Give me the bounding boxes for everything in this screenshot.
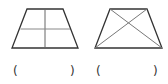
trapezoid-outline <box>95 9 162 48</box>
trapezoid-grid-figure <box>12 9 78 48</box>
answer-open-paren: ( <box>13 65 18 77</box>
answer-open-paren: ( <box>96 65 101 77</box>
answer-close-paren: ) <box>153 65 158 77</box>
trapezoid-diagonals-figure <box>95 9 162 48</box>
figures-canvas <box>0 0 168 84</box>
answer-close-paren: ) <box>70 65 75 77</box>
